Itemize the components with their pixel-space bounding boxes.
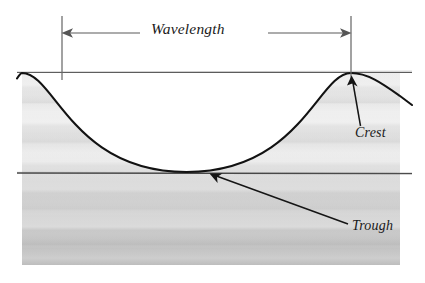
trough-label: Trough: [352, 219, 393, 233]
wave-diagram-canvas: [0, 0, 425, 283]
water-streak-texture: [22, 68, 400, 265]
water-body: [22, 68, 400, 265]
crest-level-line-shadow: [17, 71, 412, 72]
wave-diagram: Wavelength Crest Trough: [0, 0, 425, 283]
wavelength-label: Wavelength: [151, 21, 225, 37]
crest-label: Crest: [355, 126, 386, 140]
